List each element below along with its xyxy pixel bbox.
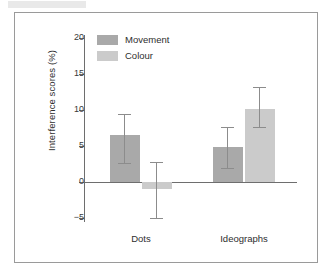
y-tick-label-10-wrap: 10	[52, 105, 84, 114]
errorbar-stem-movement-dots	[124, 114, 125, 164]
errorbar-cap-bottom-movement-ideographs	[221, 168, 234, 169]
plot-area: 20 15 10 5 0 −5 Interference scores (%)	[0, 0, 333, 275]
y-axis-title: Interference scores (%)	[46, 46, 57, 156]
errorbar-cap-bottom-colour-ideographs	[253, 127, 266, 128]
y-tick-label-10: 10	[60, 105, 84, 114]
x-category-label-ideographs: Ideographs	[199, 233, 289, 244]
y-tick-label-20: 20	[60, 33, 84, 42]
legend-swatch-movement-icon	[97, 35, 118, 45]
y-tick-label-15-wrap: 15	[52, 69, 84, 78]
y-tick-label-0-wrap: 0	[52, 177, 84, 186]
legend-label-movement: Movement	[125, 35, 169, 45]
y-tick-label-5-wrap: 5	[52, 141, 84, 150]
errorbar-cap-bottom-movement-dots	[118, 163, 131, 164]
legend-swatch-colour-icon	[97, 51, 118, 61]
errorbar-stem-colour-ideographs	[259, 87, 260, 128]
y-tick-label-minus5: −5	[60, 213, 84, 222]
legend-label-colour: Colour	[125, 51, 153, 61]
bar-colour-dots	[142, 182, 172, 189]
errorbar-cap-bottom-colour-dots	[150, 218, 163, 219]
errorbar-cap-top-colour-ideographs	[253, 87, 266, 88]
y-tick-label-15: 15	[60, 69, 84, 78]
errorbar-cap-top-movement-ideographs	[221, 127, 234, 128]
legend-item-colour: Colour	[97, 49, 169, 63]
errorbar-stem-movement-ideographs	[227, 127, 228, 169]
legend-item-movement: Movement	[97, 33, 169, 47]
bar-colour-ideographs	[245, 109, 275, 182]
y-axis-line	[84, 35, 85, 222]
errorbar-stem-colour-dots	[156, 162, 157, 218]
y-tick-label-20-wrap: 20	[52, 33, 84, 42]
y-tick-label-minus5-wrap: −5	[52, 213, 84, 222]
y-tick-label-0: 0	[60, 177, 84, 186]
errorbar-cap-top-movement-dots	[118, 114, 131, 115]
x-category-label-dots: Dots	[96, 233, 186, 244]
bar-movement-dots	[110, 135, 140, 182]
bar-movement-ideographs	[213, 147, 243, 182]
figure-root: 20 15 10 5 0 −5 Interference scores (%)	[0, 0, 333, 275]
legend: Movement Colour	[97, 33, 169, 65]
errorbar-cap-top-colour-dots	[150, 162, 163, 163]
y-tick-label-5: 5	[60, 141, 84, 150]
zero-baseline	[84, 182, 297, 183]
